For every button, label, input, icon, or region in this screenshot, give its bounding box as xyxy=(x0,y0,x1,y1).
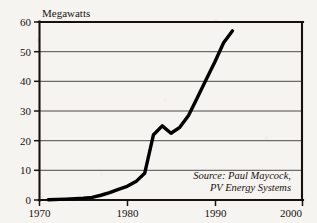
source-note-line-2: PV Energy Systems xyxy=(209,182,291,193)
x-tick-label-1990: 1990 xyxy=(205,207,228,219)
x-tick-label-1970: 1970 xyxy=(29,207,52,219)
y-tick-label-0: 0 xyxy=(26,194,32,206)
gridlines xyxy=(39,52,303,171)
y-tick-label-50: 50 xyxy=(20,46,32,58)
y-tick-label-40: 40 xyxy=(20,75,32,87)
line-chart: Megawatts 60 50 40 30 20 10 0 1970 1980 … xyxy=(0,0,317,223)
x-tick-label-1980: 1980 xyxy=(117,207,140,219)
y-tick-label-10: 10 xyxy=(20,164,32,176)
y-tickmarks xyxy=(34,22,39,200)
y-tick-label-20: 20 xyxy=(20,135,32,147)
chart-page: Megawatts 60 50 40 30 20 10 0 1970 1980 … xyxy=(0,0,317,223)
source-note-line-1: Source: Paul Maycock, xyxy=(193,170,291,181)
y-axis-title: Megawatts xyxy=(42,7,90,19)
y-tick-label-30: 30 xyxy=(20,105,32,117)
x-tick-label-2000: 2000 xyxy=(280,207,303,219)
y-tick-label-60: 60 xyxy=(20,16,32,28)
